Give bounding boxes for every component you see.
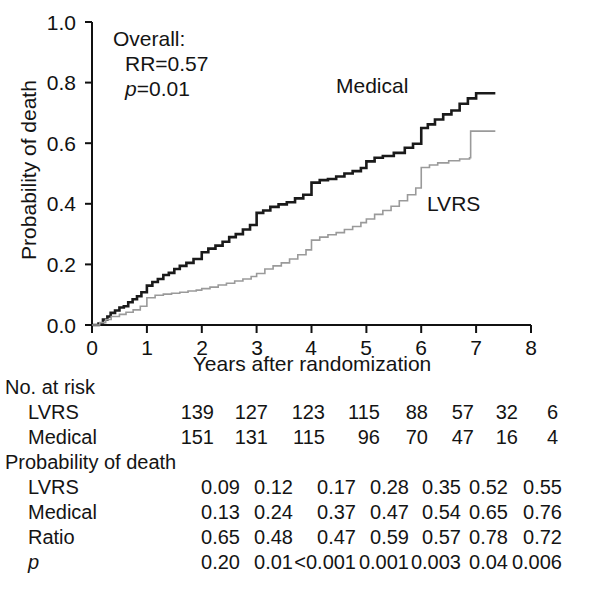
series-label-lvrs: LVRS [427,192,480,216]
table-cell: 0.55 [492,476,562,499]
table-row-label: p [28,551,39,574]
series-label-medical: Medical [336,74,408,98]
figure-page: 1.0 0.8 0.6 0.4 0.2 0.0 0 1 2 3 4 5 6 7 … [0,0,611,609]
risk-and-probability-table: No. at riskLVRS1391271231158857326Medica… [0,376,611,576]
annotation-p-symbol: p [125,77,137,100]
y-axis-title: Probability of death [17,45,41,295]
series-line-lvrs [92,131,495,325]
table-section-heading: Probability of death [5,451,176,474]
table-section-heading: No. at risk [5,376,95,399]
table-cell: 4 [488,426,558,449]
table-row-label: LVRS [28,476,79,499]
annotation-rr-value: RR=0.57 [125,51,208,76]
kaplan-meier-chart: 1.0 0.8 0.6 0.4 0.2 0.0 0 1 2 3 4 5 6 7 … [0,0,611,380]
annotation-p-value: p=0.01 [125,76,208,101]
ytick-label-1-0: 1.0 [14,12,76,33]
table-row: LVRS0.090.120.170.280.350.520.55 [0,476,611,501]
table-cell: 0.76 [492,501,562,524]
table-row: Ratio0.650.480.470.590.570.780.72 [0,526,611,551]
table-cell: 0.01 [223,551,293,574]
table-cell: 0.24 [223,501,293,524]
annotation-p-number: =0.01 [137,77,190,100]
table-cell: 0.48 [223,526,293,549]
table-row-label: LVRS [28,401,79,424]
chart-plot-area [0,0,611,380]
table-cell: 0.006 [492,551,562,574]
table-row-label: Ratio [28,526,75,549]
table-row: p0.200.01<0.0010.0010.0030.040.006 [0,551,611,576]
table-cell: 6 [488,401,558,424]
table-cell: 0.72 [492,526,562,549]
x-axis-title: Years after randomization [92,352,532,376]
table-row-label: Medical [28,501,97,524]
annotation-overall-label: Overall: [113,26,208,51]
ytick-label-0-0: 0.0 [14,315,76,336]
table-section-header-row: Probability of death [0,451,611,476]
table-section-header-row: No. at risk [0,376,611,401]
table-row: Medical151131115967047164 [0,426,611,451]
overall-statistics-annotation: Overall: RR=0.57 p=0.01 [113,26,208,101]
table-row-label: Medical [28,426,97,449]
table-row: Medical0.130.240.370.470.540.650.76 [0,501,611,526]
table-row: LVRS1391271231158857326 [0,401,611,426]
table-cell: 0.12 [223,476,293,499]
